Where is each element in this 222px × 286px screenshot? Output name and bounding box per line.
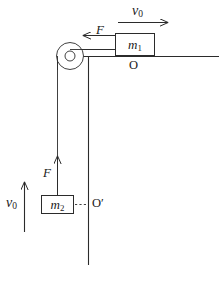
origin-label-top: O [129,59,138,72]
force-label-top: F [96,23,104,36]
block-m1-label: m1 [128,37,142,53]
velocity-label-top: v0 [132,4,143,20]
origin-label-bottom: O′ [92,197,104,210]
block-m2-label: m2 [51,197,65,213]
physics-diagram: m1 m2 v0 F O F v0 O′ [0,0,222,286]
velocity-label-bottom: v0 [6,196,17,212]
force-label-bottom: F [43,166,51,179]
block-m2: m2 [41,195,74,214]
block-m1: m1 [115,33,155,56]
diagram-canvas [0,0,222,286]
pulley-axle [65,51,75,61]
